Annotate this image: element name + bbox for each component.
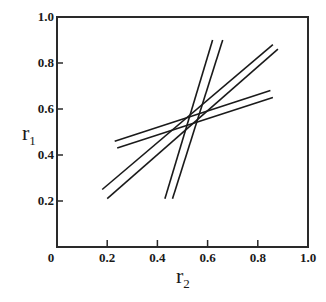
x-tick-label: 0.8 bbox=[250, 250, 267, 265]
y-tick-label: 0.6 bbox=[38, 101, 55, 116]
x-tick-label: 0.2 bbox=[99, 250, 115, 265]
shallow-line-2 bbox=[117, 98, 273, 149]
y-axis-label: r1 bbox=[22, 120, 36, 148]
y-tick-label: 0.2 bbox=[38, 193, 54, 208]
y-tick-label: 0.8 bbox=[38, 55, 55, 70]
y-tick-label: 0.4 bbox=[38, 147, 55, 162]
x-tick-label: 0.4 bbox=[149, 250, 166, 265]
x-axis-label: r2 bbox=[176, 263, 190, 291]
chart: 00.20.40.60.81.00.20.40.60.81.0 r1 r2 bbox=[0, 0, 326, 302]
series-layer bbox=[102, 40, 278, 199]
y-tick-label: 1.0 bbox=[38, 9, 54, 24]
x-tick-label: 0 bbox=[48, 250, 55, 265]
x-tick-label: 1.0 bbox=[300, 250, 316, 265]
x-tick-label: 0.6 bbox=[199, 250, 216, 265]
